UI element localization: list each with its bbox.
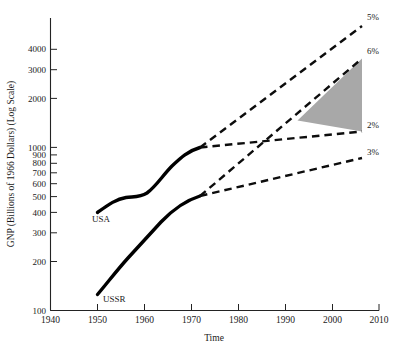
y-axis-title: GNP (Billions of 1966 Dollars) (Log Scal… (6, 81, 17, 247)
ytick-label: 600 (33, 179, 47, 189)
xtick-label: 1970 (182, 315, 201, 325)
xtick-label: 1980 (229, 315, 248, 325)
xtick-label: 2000 (323, 315, 342, 325)
ytick-label: 1000 (28, 143, 47, 153)
ytick-label: 400 (33, 208, 47, 218)
xtick-label: 2010 (370, 315, 389, 325)
ytick-label: 2000 (28, 94, 47, 104)
y-axis-ticks (51, 49, 58, 310)
ytick-label: 700 (33, 168, 47, 178)
ytick-label: 4000 (28, 44, 47, 54)
gnp-projection-chart: 100 200 300 400 500 600 700 800 900 1000… (0, 0, 401, 351)
ussr-overtakes-usa-region (298, 59, 363, 132)
x-axis-tick-labels: 1940 1950 1960 1970 1980 1990 2000 2010 (41, 315, 389, 325)
ussr-series-label: USSR (103, 294, 126, 304)
x-axis-title: Time (204, 333, 224, 343)
ytick-label: 200 (33, 257, 47, 267)
ytick-label: 300 (33, 228, 47, 238)
ussr-solid-curve (98, 196, 201, 295)
rate-annotation-6-percent: 6% (367, 46, 380, 56)
xtick-label: 1940 (41, 315, 60, 325)
y-axis-tick-labels: 100 200 300 400 500 600 700 800 900 1000… (28, 44, 47, 315)
rate-annotation-5-percent: 5% (367, 12, 380, 22)
ytick-label: 3000 (28, 65, 47, 75)
ussr-projection-3-percent (200, 158, 362, 196)
ytick-label: 500 (33, 192, 47, 202)
usa-series-label: USA (92, 214, 111, 224)
usa-projection-2-percent (200, 132, 362, 148)
xtick-label: 1960 (135, 315, 154, 325)
rate-annotation-3-percent: 3% (367, 147, 380, 157)
rate-annotation-2-percent: 2% (367, 120, 380, 130)
xtick-label: 1990 (276, 315, 295, 325)
xtick-label: 1950 (88, 315, 107, 325)
x-axis-ticks (51, 304, 380, 311)
